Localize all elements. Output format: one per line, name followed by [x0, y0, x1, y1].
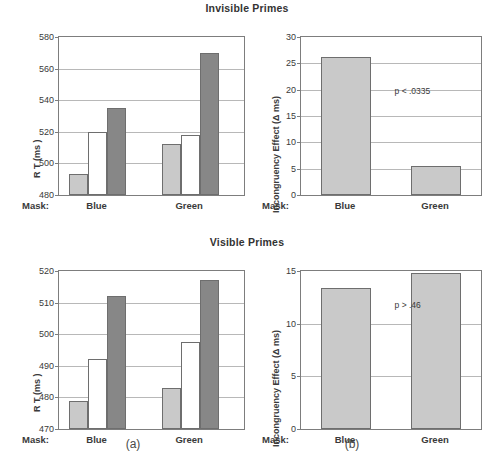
x-axis-group-label: Green: [421, 434, 448, 445]
y-axis-tick: 520: [39, 266, 59, 276]
y-axis-tick: 470: [39, 424, 59, 434]
y-axis-tick: 510: [39, 298, 59, 308]
bar: [69, 401, 88, 429]
bar: [88, 359, 107, 429]
y-axis-tick: 10: [286, 319, 301, 329]
y-axis-tick: 0: [291, 424, 301, 434]
subplot-caption-b: (b): [345, 437, 360, 451]
x-axis-group-label: Green: [421, 200, 448, 211]
x-axis-group-label: Blue: [86, 434, 107, 445]
x-axis-mask-label: Mask:: [22, 200, 49, 211]
p-value-annotation: p < .0335: [395, 86, 431, 96]
x-axis-mask-label: Mask:: [262, 434, 289, 445]
y-axis-tick: 490: [39, 361, 59, 371]
y-axis-tick: 500: [39, 158, 59, 168]
row-title-visible: Visible Primes: [0, 236, 494, 248]
x-axis-labels: Mask:BlueGreen: [258, 200, 480, 214]
x-axis-group-label: Green: [175, 200, 202, 211]
bar: [321, 57, 371, 196]
y-axis-tick: 520: [39, 127, 59, 137]
x-axis-group-label: Green: [175, 434, 202, 445]
subplot-caption-a: (a): [126, 437, 141, 451]
x-axis-mask-label: Mask:: [262, 200, 289, 211]
plot-area: 480500520540560580: [58, 36, 245, 196]
plot-area: 051015p > .46: [300, 270, 482, 430]
y-axis-tick: 540: [39, 95, 59, 105]
bar: [107, 108, 126, 195]
x-axis-mask-label: Mask:: [22, 434, 49, 445]
bar: [411, 166, 461, 195]
y-axis-tick: 0: [291, 190, 301, 200]
panel-row-invisible: Invisible Primes R T (ms ) 4805005205405…: [0, 0, 494, 234]
x-axis-labels: Mask:BlueGreen: [258, 434, 480, 448]
y-axis-label: Incongruency Effect (Δ ms): [271, 330, 281, 447]
y-axis-tick: 560: [39, 64, 59, 74]
y-axis-tick: 500: [39, 329, 59, 339]
x-axis-group-label: Blue: [86, 200, 107, 211]
bar: [200, 53, 219, 195]
bar: [200, 280, 219, 429]
bar: [411, 273, 461, 429]
y-axis-tick: 20: [286, 85, 301, 95]
y-axis-label: Incongruency Effect (Δ ms): [271, 96, 281, 213]
bar: [162, 388, 181, 429]
bar: [321, 288, 371, 429]
x-axis-group-label: Blue: [335, 200, 356, 211]
y-axis-tick: 15: [286, 266, 301, 276]
y-axis-tick: 5: [291, 371, 301, 381]
y-axis-tick: 480: [39, 190, 59, 200]
y-axis-tick: 15: [286, 111, 301, 121]
y-axis-tick: 30: [286, 32, 301, 42]
y-axis-tick: 580: [39, 32, 59, 42]
p-value-annotation: p > .46: [395, 300, 421, 310]
bar: [181, 135, 200, 195]
bar: [107, 296, 126, 429]
plot-area: 470480490500510520: [58, 270, 245, 430]
y-axis-tick: 480: [39, 392, 59, 402]
bar: [69, 174, 88, 195]
figure-root: Invisible Primes R T (ms ) 4805005205405…: [0, 0, 494, 468]
row-title-invisible: Invisible Primes: [0, 2, 494, 14]
plot-area: 051015202530p < .0335: [300, 36, 482, 196]
x-axis-labels: Mask:BlueGreen: [18, 200, 243, 214]
y-axis-tick: 10: [286, 137, 301, 147]
y-axis-tick: 5: [291, 164, 301, 174]
bar: [181, 342, 200, 429]
bar: [88, 132, 107, 195]
panel-row-visible: Visible Primes R T (ms ) 470480490500510…: [0, 234, 494, 468]
y-axis-tick: 25: [286, 58, 301, 68]
bar: [162, 144, 181, 195]
